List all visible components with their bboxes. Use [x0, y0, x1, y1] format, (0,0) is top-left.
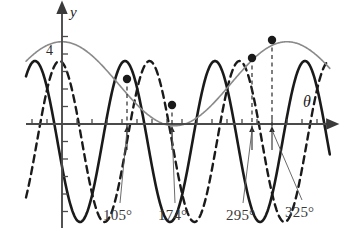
plot-canvas — [0, 0, 345, 237]
theta-axis-label: θ — [303, 93, 311, 111]
intersection-point — [168, 101, 176, 109]
curves-group — [26, 42, 330, 222]
trig-intersection-figure: y θ 4 105° 174° 295° 325° — [0, 0, 345, 237]
axes-group — [26, 12, 328, 228]
angle-label-295: 295° — [226, 207, 255, 224]
angle-label-325: 325° — [285, 204, 314, 221]
y-tick-label-4: 4 — [46, 43, 53, 59]
leader-line — [172, 130, 175, 203]
angle-label-174: 174° — [158, 207, 187, 224]
intersection-point — [248, 54, 256, 62]
leader-line — [272, 130, 302, 200]
leader-line — [120, 130, 127, 203]
curve-dashed-curve — [26, 61, 330, 222]
y-axis-label: y — [70, 4, 77, 21]
intersection-point — [268, 36, 276, 44]
intersection-point — [123, 75, 131, 83]
angle-label-105: 105° — [103, 207, 132, 224]
